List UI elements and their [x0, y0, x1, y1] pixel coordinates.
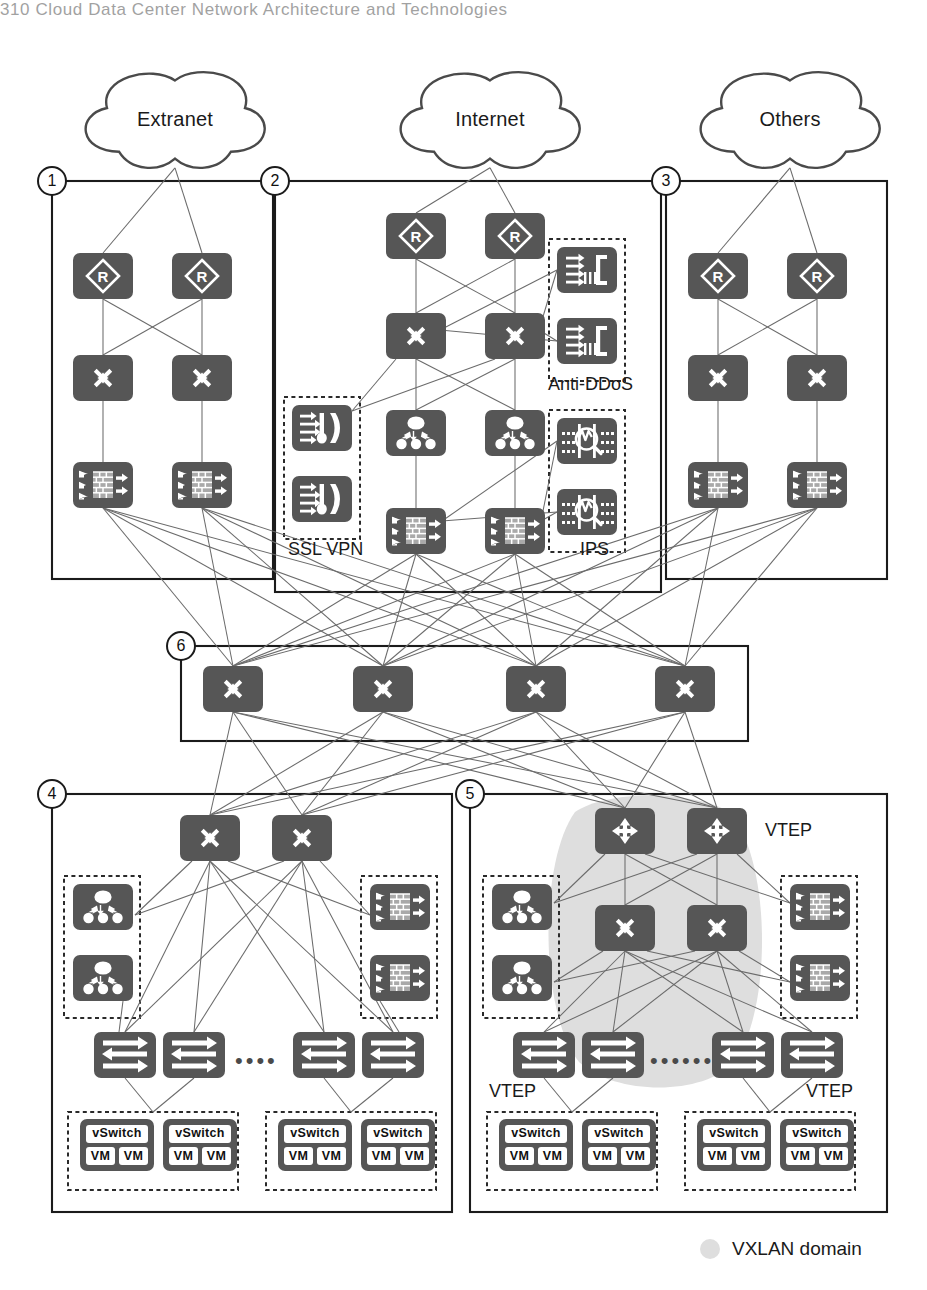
vtep-router-node[interactable]: [595, 808, 655, 854]
firewall-node[interactable]: [370, 884, 430, 930]
switch-node[interactable]: [595, 905, 655, 951]
tor-switch-node[interactable]: [293, 1032, 355, 1078]
switch-node[interactable]: [687, 905, 747, 951]
vm-label: VM: [786, 1147, 815, 1166]
cloud-internet[interactable]: Internet: [390, 62, 590, 177]
vm-label: VM: [736, 1147, 765, 1166]
core-switch-node[interactable]: [655, 666, 715, 712]
load-balancer-node[interactable]: [386, 410, 446, 456]
tor-switch-node[interactable]: [582, 1032, 644, 1078]
switch-node[interactable]: [688, 355, 748, 401]
router-node[interactable]: R: [386, 213, 446, 259]
load-balancer-icon: [73, 884, 133, 930]
router-node[interactable]: R: [688, 253, 748, 299]
label-anti-ddos: Anti-DDoS: [548, 374, 633, 395]
ssl-vpn-node[interactable]: [292, 476, 352, 522]
router-node[interactable]: R: [787, 253, 847, 299]
switch-node[interactable]: [787, 355, 847, 401]
router-node[interactable]: R: [73, 253, 133, 299]
vm-label: VM: [588, 1147, 617, 1166]
vxlan-legend-swatch: [700, 1239, 720, 1259]
router-node[interactable]: R: [485, 213, 545, 259]
switch-node[interactable]: [180, 815, 240, 861]
tor-switch-node[interactable]: [362, 1032, 424, 1078]
core-switch-node[interactable]: [353, 666, 413, 712]
vm-label: VM: [119, 1147, 148, 1166]
load-balancer-node[interactable]: [492, 955, 552, 1001]
router-node[interactable]: R: [172, 253, 232, 299]
router-icon: R: [386, 213, 446, 259]
firewall-node[interactable]: [688, 462, 748, 508]
dots-zone5: ••••••: [650, 1050, 714, 1072]
svg-text:R: R: [411, 228, 422, 245]
firewall-icon: [485, 508, 545, 554]
vswitch-label: vSwitch: [505, 1125, 567, 1143]
anti-ddos-node[interactable]: [557, 247, 617, 293]
firewall-node[interactable]: [73, 462, 133, 508]
vswitch-host[interactable]: vSwitchVMVM: [499, 1119, 573, 1171]
switch-icon: [655, 666, 715, 712]
vswitch-host[interactable]: vSwitchVMVM: [780, 1119, 854, 1171]
svg-text:R: R: [98, 268, 109, 285]
vswitch-host[interactable]: vSwitchVMVM: [163, 1119, 237, 1171]
switch-icon: [272, 815, 332, 861]
cloud-extranet[interactable]: Extranet: [75, 62, 275, 177]
core-switch-node[interactable]: [203, 666, 263, 712]
tor-switch-node[interactable]: [513, 1032, 575, 1078]
label-ips: IPS: [580, 539, 609, 560]
ips-icon: [557, 489, 617, 535]
ips-node[interactable]: [557, 489, 617, 535]
firewall-node[interactable]: [386, 508, 446, 554]
load-balancer-node[interactable]: [73, 955, 133, 1001]
firewall-node[interactable]: [787, 462, 847, 508]
anti-ddos-node[interactable]: [557, 318, 617, 364]
switch-node[interactable]: [172, 355, 232, 401]
switch-node[interactable]: [485, 313, 545, 359]
vswitch-label: vSwitch: [169, 1125, 231, 1143]
firewall-icon: [790, 955, 850, 1001]
firewall-node[interactable]: [172, 462, 232, 508]
switch-node[interactable]: [386, 313, 446, 359]
tor-switch-node[interactable]: [781, 1032, 843, 1078]
load-balancer-node[interactable]: [492, 884, 552, 930]
tor-switch-node[interactable]: [712, 1032, 774, 1078]
zone-1-badge: 1: [37, 166, 67, 196]
switch-icon: [73, 355, 133, 401]
firewall-node[interactable]: [370, 955, 430, 1001]
tor-switch-node[interactable]: [163, 1032, 225, 1078]
load-balancer-node[interactable]: [73, 884, 133, 930]
vswitch-host[interactable]: vSwitchVMVM: [278, 1119, 352, 1171]
vm-label: VM: [538, 1147, 567, 1166]
switch-icon: [203, 666, 263, 712]
firewall-icon: [73, 462, 133, 508]
cloud-others[interactable]: Others: [690, 62, 890, 177]
svg-text:R: R: [510, 228, 521, 245]
firewall-node[interactable]: [790, 884, 850, 930]
vswitch-host[interactable]: vSwitchVMVM: [361, 1119, 435, 1171]
vtep-router-node[interactable]: [687, 808, 747, 854]
vswitch-label: vSwitch: [588, 1125, 650, 1143]
firewall-node[interactable]: [790, 955, 850, 1001]
tor-switch-node[interactable]: [94, 1032, 156, 1078]
vswitch-host[interactable]: vSwitchVMVM: [697, 1119, 771, 1171]
load-balancer-icon: [485, 410, 545, 456]
ips-node[interactable]: [557, 418, 617, 464]
ssl-vpn-node[interactable]: [292, 405, 352, 451]
ips-icon: [557, 418, 617, 464]
vm-label: VM: [505, 1147, 534, 1166]
vswitch-host[interactable]: vSwitchVMVM: [582, 1119, 656, 1171]
vswitch-host[interactable]: vSwitchVMVM: [80, 1119, 154, 1171]
firewall-icon: [386, 508, 446, 554]
network-architecture-diagram: 310 Cloud Data Center Network Architectu…: [0, 0, 927, 1290]
core-switch-node[interactable]: [506, 666, 566, 712]
load-balancer-icon: [492, 884, 552, 930]
switch-icon: [353, 666, 413, 712]
switch-node[interactable]: [73, 355, 133, 401]
router-icon: R: [485, 213, 545, 259]
load-balancer-node[interactable]: [485, 410, 545, 456]
vm-label: VM: [703, 1147, 732, 1166]
switch-node[interactable]: [272, 815, 332, 861]
firewall-node[interactable]: [485, 508, 545, 554]
vswitch-label: vSwitch: [86, 1125, 148, 1143]
ssl-vpn-icon: [292, 405, 352, 451]
